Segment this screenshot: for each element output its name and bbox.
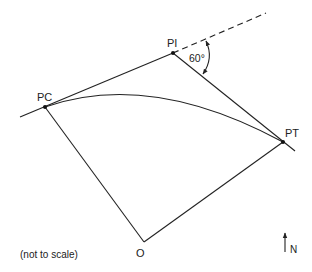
deflection-angle-label: 60°	[189, 52, 205, 64]
forward-tangent-line	[173, 53, 295, 151]
tangent-extension-dashed-line	[173, 13, 266, 53]
pc-point-marker	[43, 105, 47, 109]
diagram-canvas: PC PI PT O 60° N (not to scale)	[0, 0, 312, 272]
pc-label: PC	[37, 91, 52, 103]
curve-diagram: PC PI PT O 60° N (not to scale)	[0, 0, 312, 272]
not-to-scale-note: (not to scale)	[20, 249, 78, 260]
o-label: O	[136, 247, 145, 259]
pt-point-marker	[281, 140, 285, 144]
pi-point-marker	[171, 51, 175, 55]
circular-curve-arc	[45, 94, 283, 142]
radius-line-pt	[144, 142, 283, 242]
pi-label: PI	[167, 37, 177, 49]
back-tangent-line	[20, 53, 173, 117]
north-label: N	[290, 244, 297, 255]
radius-line-pc	[45, 107, 144, 242]
pt-label: PT	[285, 127, 299, 139]
